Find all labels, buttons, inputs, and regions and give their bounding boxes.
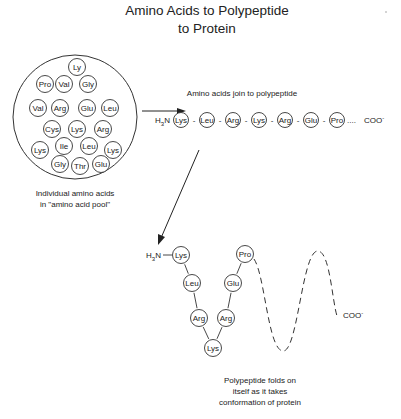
pool-caption-line1: Individual amino acids <box>36 189 115 198</box>
svg-text:Pro: Pro <box>39 80 52 89</box>
amino-acid-lys: Lys <box>32 142 49 159</box>
svg-text:Arg: Arg <box>54 104 66 113</box>
n-terminus: H3N <box>146 251 161 262</box>
svg-text:Arg: Arg <box>97 125 109 134</box>
svg-text:Val: Val <box>59 80 70 89</box>
c-terminus: COO- <box>343 310 363 320</box>
svg-text:Arg: Arg <box>279 116 291 125</box>
svg-text:Glu: Glu <box>81 104 93 113</box>
amino-acid-leu: Leu <box>102 100 119 117</box>
svg-text:Lys: Lys <box>175 116 187 125</box>
amino-acid-glu: Glu <box>304 113 319 128</box>
amino-acid-pro: Pro <box>37 76 54 93</box>
stray-dot <box>385 11 386 12</box>
polypeptide-chain: H3NLys-Leu-Arg-Lys-Arg-Glu-Pro....COO- <box>155 113 384 128</box>
bond <box>228 293 231 308</box>
n-terminus: H3N <box>155 116 170 127</box>
amino-acid-glu: Glu <box>79 100 96 117</box>
peptide-bond: - <box>297 116 300 125</box>
svg-text:Lys: Lys <box>34 146 46 155</box>
amino-acid-lys: Lys <box>173 247 190 264</box>
amino-acid-arg: Arg <box>226 113 241 128</box>
svg-text:Lys: Lys <box>175 251 187 260</box>
svg-text:Lys: Lys <box>107 146 119 155</box>
amino-acid-lys: Lys <box>69 121 86 138</box>
svg-text:Leu: Leu <box>200 116 213 125</box>
peptide-bond: - <box>271 116 274 125</box>
svg-text:Glu: Glu <box>227 279 239 288</box>
svg-text:Leu: Leu <box>82 142 95 151</box>
amino-acid-lys: Lys <box>205 340 222 357</box>
folded-caption-line2: itself as it takes <box>233 387 288 396</box>
amino-acid-val: Val <box>56 76 73 93</box>
amino-acid-arg: Arg <box>278 113 293 128</box>
amino-acid-arg: Arg <box>218 310 235 327</box>
amino-acid-leu: Leu <box>81 138 98 155</box>
peptide-bond: - <box>245 116 248 125</box>
peptide-bond: - <box>219 116 222 125</box>
peptide-bond: - <box>193 116 196 125</box>
amino-acid-lys: Lys <box>252 113 267 128</box>
fold-arrow-head-icon <box>158 234 165 245</box>
pool-caption-line2: in "amino acid pool" <box>40 200 110 209</box>
bond <box>237 263 241 274</box>
title-line2: to Protein <box>178 21 236 36</box>
amino-acid-thr: Thr <box>72 158 89 175</box>
amino-acid-glu: Glu <box>225 275 242 292</box>
svg-text:Pro: Pro <box>331 116 344 125</box>
amino-acid-pro: Pro <box>330 113 345 128</box>
amino-acid-arg: Arg <box>95 121 112 138</box>
amino-acid-diagram: Amino Acids to Polypeptide to Protein Ly… <box>0 0 401 419</box>
folded-protein: H3NLysLeuArgLysArgGluProCOO- <box>146 246 363 357</box>
svg-text:Glu: Glu <box>95 160 107 169</box>
chain-ellipsis: .... <box>347 116 356 125</box>
amino-acid-glu: Glu <box>93 156 110 173</box>
svg-text:Thr: Thr <box>74 162 86 171</box>
bond <box>194 293 197 308</box>
svg-text:Gly: Gly <box>54 160 66 169</box>
amino-acid-leu: Leu <box>200 113 215 128</box>
amino-acid-ly: Ly <box>69 59 86 76</box>
amino-acid-lys: Lys <box>174 113 189 128</box>
svg-text:Glu: Glu <box>305 116 317 125</box>
svg-text:Lys: Lys <box>253 116 265 125</box>
chain-label: Amino acids join to polypeptide <box>187 89 298 98</box>
amino-acid-gly: Gly <box>80 76 97 93</box>
svg-text:Ile: Ile <box>60 142 69 151</box>
svg-text:Cys: Cys <box>45 125 59 134</box>
folded-caption-line3: conformation of protein <box>219 398 301 407</box>
svg-text:Pro: Pro <box>239 250 252 259</box>
svg-text:Arg: Arg <box>227 116 239 125</box>
amino-acid-leu: Leu <box>184 275 201 292</box>
svg-text:Ly: Ly <box>73 63 81 72</box>
folded-caption-line1: Polypeptide folds on <box>224 376 296 385</box>
svg-text:Lys: Lys <box>71 125 83 134</box>
bond <box>203 327 209 339</box>
svg-text:Leu: Leu <box>185 279 198 288</box>
amino-acid-arg: Arg <box>191 310 208 327</box>
c-terminus: COO- <box>364 115 384 125</box>
bond <box>217 327 222 339</box>
svg-text:Gly: Gly <box>82 80 94 89</box>
fold-arrow <box>161 150 199 238</box>
pool-acids: LyProValGlyValArgGluLeuCysLysArgLysIleLe… <box>30 59 122 175</box>
folded-dashed-chain <box>254 251 337 351</box>
amino-acid-arg: Arg <box>52 100 69 117</box>
svg-text:Leu: Leu <box>103 104 116 113</box>
peptide-bond: - <box>323 116 326 125</box>
svg-text:Arg: Arg <box>193 314 205 323</box>
amino-acid-lys: Lys <box>105 142 122 159</box>
title-line1: Amino Acids to Polypeptide <box>125 3 289 18</box>
amino-acid-cys: Cys <box>44 121 61 138</box>
svg-text:Lys: Lys <box>207 344 219 353</box>
amino-acid-ile: Ile <box>56 138 73 155</box>
svg-text:Arg: Arg <box>220 314 232 323</box>
amino-acid-val: Val <box>30 100 47 117</box>
bond <box>185 264 189 273</box>
svg-text:Val: Val <box>33 104 44 113</box>
amino-acid-pro: Pro <box>237 246 254 263</box>
amino-acid-gly: Gly <box>52 156 69 173</box>
